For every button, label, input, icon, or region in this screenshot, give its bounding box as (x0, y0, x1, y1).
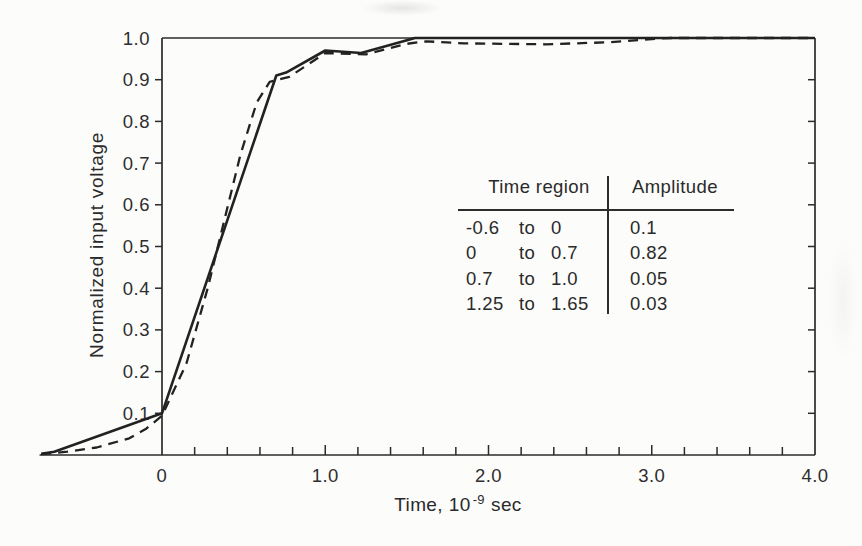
x-axis-title-exponent: -9 (473, 492, 485, 507)
x-axis-title-base: Time, 10 (394, 494, 470, 515)
inset-table-header-row: Time region Amplitude (456, 176, 738, 198)
y-axis-tick-label: 0.9 (123, 69, 150, 90)
table-row: -0.6 to 0 0.1 (456, 215, 738, 241)
inset-table: Time region Amplitude -0.6 to 0 0.1 0 to… (456, 166, 738, 322)
time-region-end: 0.7 (551, 242, 597, 264)
x-axis-tick-label: 1.0 (312, 465, 339, 486)
y-axis-tick-label: 0.1 (123, 403, 150, 424)
time-region-separator: to (519, 293, 551, 315)
time-region-end: 0 (551, 217, 597, 239)
inset-table-header-rule (458, 209, 734, 211)
amplitude-value: 0.1 (597, 217, 657, 239)
inset-table-header-time-region: Time region (456, 176, 608, 198)
x-axis-tick-label: 2.0 (475, 465, 502, 486)
x-axis-title: Time, 10-9sec (360, 492, 556, 516)
x-axis-tick-label: 3.0 (638, 465, 665, 486)
y-axis-tick-label: 0.6 (123, 194, 150, 215)
inset-table-body: -0.6 to 0 0.1 0 to 0.7 0.82 0.7 to 1.0 0… (456, 215, 738, 317)
y-axis-title: Normalized input voltage (86, 132, 108, 358)
amplitude-value: 0.03 (597, 293, 668, 315)
x-axis-title-unit: sec (491, 494, 522, 515)
time-region-end: 1.65 (551, 293, 597, 315)
y-axis-tick-label: 0.3 (123, 319, 150, 340)
amplitude-value: 0.82 (597, 242, 668, 264)
y-axis-tick-label: 0.7 (123, 153, 150, 174)
y-axis-tick-label: 0.2 (123, 361, 150, 382)
figure-root: 0.10.20.30.40.50.60.70.80.91.001.02.03.0… (0, 0, 862, 546)
y-axis-tick-label: 0.4 (123, 278, 150, 299)
time-region-separator: to (519, 268, 551, 290)
time-region-start: -0.6 (456, 217, 519, 239)
x-axis-tick-label: 0 (157, 465, 168, 486)
amplitude-value: 0.05 (597, 268, 668, 290)
inset-table-header-amplitude: Amplitude (608, 176, 730, 198)
time-region-end: 1.0 (551, 268, 597, 290)
table-row: 0.7 to 1.0 0.05 (456, 266, 738, 292)
table-row: 0 to 0.7 0.82 (456, 241, 738, 267)
time-region-separator: to (519, 242, 551, 264)
x-axis-tick-label: 4.0 (801, 465, 828, 486)
y-axis-tick-label: 0.8 (123, 111, 150, 132)
y-axis-tick-label: 0.5 (123, 236, 150, 257)
time-region-separator: to (519, 217, 551, 239)
time-region-start: 0 (456, 242, 519, 264)
time-region-start: 1.25 (456, 293, 519, 315)
table-row: 1.25 to 1.65 0.03 (456, 292, 738, 318)
time-region-start: 0.7 (456, 268, 519, 290)
y-axis-tick-label: 1.0 (123, 28, 150, 49)
